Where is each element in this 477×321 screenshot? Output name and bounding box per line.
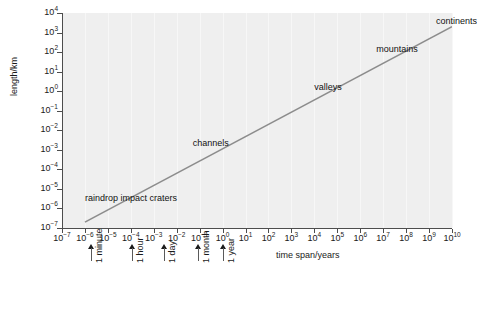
x-tick-label: 10−7 bbox=[53, 234, 70, 243]
time-marker-label: 1 year bbox=[227, 238, 236, 263]
y-tick-label: 101 bbox=[44, 67, 58, 76]
series-annotation: continents bbox=[436, 17, 477, 26]
x-tick-label: 107 bbox=[376, 234, 390, 243]
y-tick-label: 10−6 bbox=[41, 203, 58, 212]
x-tick-mark bbox=[406, 229, 407, 233]
x-axis-title: time span/years bbox=[276, 251, 340, 260]
y-tick-mark bbox=[57, 189, 62, 190]
x-tick-mark bbox=[62, 229, 63, 233]
y-tick-mark bbox=[57, 52, 62, 53]
arrow-stem bbox=[132, 248, 133, 261]
x-axis-spine bbox=[62, 228, 452, 229]
x-tick-mark bbox=[337, 229, 338, 233]
y-tick-mark bbox=[57, 169, 62, 170]
time-marker-label: 1 month bbox=[202, 230, 211, 263]
x-tick-label: 104 bbox=[308, 234, 322, 243]
arrow-stem bbox=[164, 248, 165, 261]
x-tick-mark bbox=[268, 229, 269, 233]
arrow-stem bbox=[223, 248, 224, 261]
y-tick-label: 104 bbox=[44, 8, 58, 17]
y-tick-label: 100 bbox=[44, 86, 58, 95]
x-tick-label: 109 bbox=[422, 234, 436, 243]
x-tick-mark bbox=[85, 229, 86, 233]
y-tick-mark bbox=[57, 13, 62, 14]
time-marker-label: 1 hour bbox=[136, 237, 145, 263]
series-annotation: mountains bbox=[376, 45, 418, 54]
x-tick-mark bbox=[360, 229, 361, 233]
y-tick-mark bbox=[57, 130, 62, 131]
x-tick-mark bbox=[314, 229, 315, 233]
x-tick-mark bbox=[291, 229, 292, 233]
time-marker-label: 1 minute bbox=[95, 228, 104, 263]
y-tick-mark bbox=[57, 72, 62, 73]
y-tick-label: 10−7 bbox=[41, 223, 58, 232]
x-tick-label: 10−6 bbox=[76, 234, 93, 243]
x-tick-mark bbox=[131, 229, 132, 233]
y-tick-label: 102 bbox=[44, 47, 58, 56]
y-tick-mark bbox=[57, 150, 62, 151]
y-axis-title: length/km bbox=[10, 57, 19, 96]
x-tick-mark bbox=[108, 229, 109, 233]
y-tick-mark bbox=[57, 111, 62, 112]
x-tick-label: 108 bbox=[399, 234, 413, 243]
x-tick-mark bbox=[383, 229, 384, 233]
gridline bbox=[452, 13, 453, 228]
arrow-stem bbox=[91, 248, 92, 261]
x-tick-label: 106 bbox=[353, 234, 367, 243]
y-tick-label: 103 bbox=[44, 28, 58, 37]
y-tick-label: 10−2 bbox=[41, 125, 58, 134]
series-annotation: valleys bbox=[314, 83, 342, 92]
series-annotation: channels bbox=[193, 139, 229, 148]
arrow-stem bbox=[198, 248, 199, 261]
x-tick-label: 103 bbox=[285, 234, 299, 243]
x-tick-mark bbox=[154, 229, 155, 233]
y-tick-mark bbox=[57, 208, 62, 209]
x-tick-label: 102 bbox=[262, 234, 276, 243]
x-tick-mark bbox=[177, 229, 178, 233]
series-annotation: raindrop impact craters bbox=[85, 194, 177, 203]
x-tick-mark bbox=[452, 229, 453, 233]
x-tick-mark bbox=[223, 229, 224, 233]
x-tick-label: 101 bbox=[239, 234, 253, 243]
x-tick-label: 10−3 bbox=[145, 234, 162, 243]
x-tick-label: 105 bbox=[330, 234, 344, 243]
x-tick-mark bbox=[429, 229, 430, 233]
y-tick-mark bbox=[57, 33, 62, 34]
y-tick-label: 10−3 bbox=[41, 145, 58, 154]
x-tick-mark bbox=[246, 229, 247, 233]
y-tick-label: 10−1 bbox=[41, 106, 58, 115]
x-tick-label: 1010 bbox=[443, 234, 460, 243]
y-tick-label: 10−4 bbox=[41, 164, 58, 173]
time-marker-label: 1 day bbox=[168, 241, 177, 263]
y-tick-mark bbox=[57, 91, 62, 92]
y-tick-label: 10−5 bbox=[41, 184, 58, 193]
